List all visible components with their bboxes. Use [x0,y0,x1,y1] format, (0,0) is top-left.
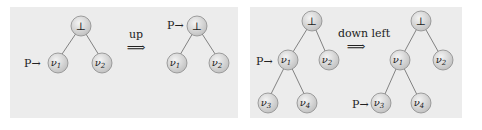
svg-text:⊥: ⊥ [76,20,86,33]
arrow: ⟹ [127,40,146,55]
tree-right-before: ⊥ ν1 ν2 ν3 ν4 P→ [256,11,339,113]
tree-left-after: ⊥ ν1 ν2 P→ [167,16,229,73]
tree-left-before: ⊥ ν1 ν2 P→ [24,16,112,73]
svg-text:P→: P→ [167,19,184,32]
svg-text:⊥: ⊥ [416,15,426,28]
svg-text:P→: P→ [352,98,369,111]
svg-text:⊥: ⊥ [192,20,202,33]
svg-text:P→: P→ [256,55,273,68]
svg-text:⊥: ⊥ [307,15,317,28]
tree-diagrams: ⊥ ν1 ν2 P→ up ⟹ ⊥ ν1 ν2 P→ ⊥ ν1 ν2 ν3 ν4… [0,0,482,130]
svg-text:⟹: ⟹ [347,39,366,54]
pointer-label: P→ [24,57,41,70]
